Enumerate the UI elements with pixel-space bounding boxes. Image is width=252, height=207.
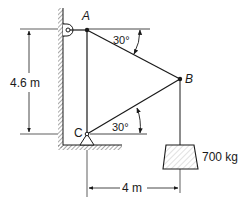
member-CB xyxy=(87,79,180,134)
angle-label-A: 30° xyxy=(113,34,130,46)
hanging-mass xyxy=(163,145,198,169)
mass-label: 700 kg xyxy=(202,150,238,164)
point-label-B: B xyxy=(185,72,193,86)
hinge-A xyxy=(63,24,87,36)
angle-arc-A xyxy=(134,30,140,54)
member-AB xyxy=(87,30,180,79)
truss-diagram: 30° 30° A B C 700 kg 4.6 m 4 m xyxy=(0,0,252,207)
wall xyxy=(58,8,63,148)
joint-A xyxy=(85,28,89,32)
point-label-A: A xyxy=(81,9,90,23)
angle-arc-C xyxy=(137,108,140,133)
dimension-label-vertical: 4.6 m xyxy=(10,76,40,90)
dimension-label-horizontal: 4 m xyxy=(122,181,142,195)
point-label-C: C xyxy=(74,126,83,140)
angle-label-C: 30° xyxy=(112,121,129,133)
floor xyxy=(58,145,122,150)
